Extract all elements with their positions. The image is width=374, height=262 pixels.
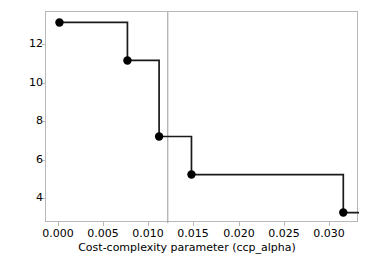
data-point xyxy=(187,170,195,178)
data-point xyxy=(123,56,131,64)
y-tick-label-4: 4 xyxy=(36,192,43,203)
y-tick-label-6: 6 xyxy=(36,154,43,165)
y-tick-label-10: 10 xyxy=(29,77,43,88)
plot-area xyxy=(45,11,358,222)
x-tick-label-0.000: 0.000 xyxy=(35,228,81,239)
y-tick-label-12: 12 xyxy=(29,38,43,49)
x-tick-label-0.025: 0.025 xyxy=(261,228,307,239)
x-tick-label-0.010: 0.010 xyxy=(125,228,171,239)
x-tick-label-0.005: 0.005 xyxy=(80,228,126,239)
data-point xyxy=(339,208,347,216)
step-plot-svg xyxy=(46,12,359,223)
data-point xyxy=(155,132,163,140)
y-tick-label-8: 8 xyxy=(36,115,43,126)
step-line xyxy=(59,22,359,212)
x-tick-label-0.020: 0.020 xyxy=(216,228,262,239)
chart-figure: Number of nodes 12 10 8 6 4 0.000 0.005 … xyxy=(0,0,374,262)
x-tick-label-0.030: 0.030 xyxy=(306,228,352,239)
data-point-markers xyxy=(55,18,347,216)
x-axis-label: Cost-complexity parameter (ccp_alpha) xyxy=(0,242,374,254)
x-tick-label-0.015: 0.015 xyxy=(170,228,216,239)
data-point xyxy=(55,18,63,26)
